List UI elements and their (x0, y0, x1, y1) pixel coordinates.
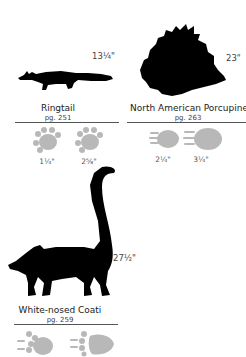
porcupine-silhouette (136, 20, 228, 102)
ringtail-page-ref[interactable]: pg. 251 (28, 114, 88, 122)
porcupine-front-track-icon (148, 128, 180, 150)
porcupine-hind-track-icon (182, 126, 224, 152)
ringtail-name: Ringtail (28, 103, 88, 113)
porcupine-front-track-size: 2¼" (148, 155, 178, 164)
coati-page-ref[interactable]: pg. 259 (40, 316, 80, 324)
porcupine-name: North American Porcupine (130, 103, 246, 113)
porcupine-height: 23" (226, 53, 241, 63)
ringtail-length: 13¼" (92, 51, 115, 61)
porcupine-hind-track-size: 3¼" (184, 155, 218, 164)
coati-height: 27½" (113, 253, 136, 263)
divider (14, 324, 118, 325)
coati-front-track-icon (15, 330, 55, 357)
ringtail-front-track-icon (30, 126, 64, 154)
coati-hind-track-icon (68, 330, 116, 357)
ringtail-silhouette (16, 66, 114, 94)
ringtail-hind-track-icon (72, 126, 106, 154)
divider (15, 122, 119, 123)
porcupine-page-ref[interactable]: pg. 263 (150, 114, 226, 122)
divider (127, 122, 246, 123)
coati-name: White-nosed Coati (12, 305, 108, 315)
coati-silhouette (6, 165, 118, 302)
